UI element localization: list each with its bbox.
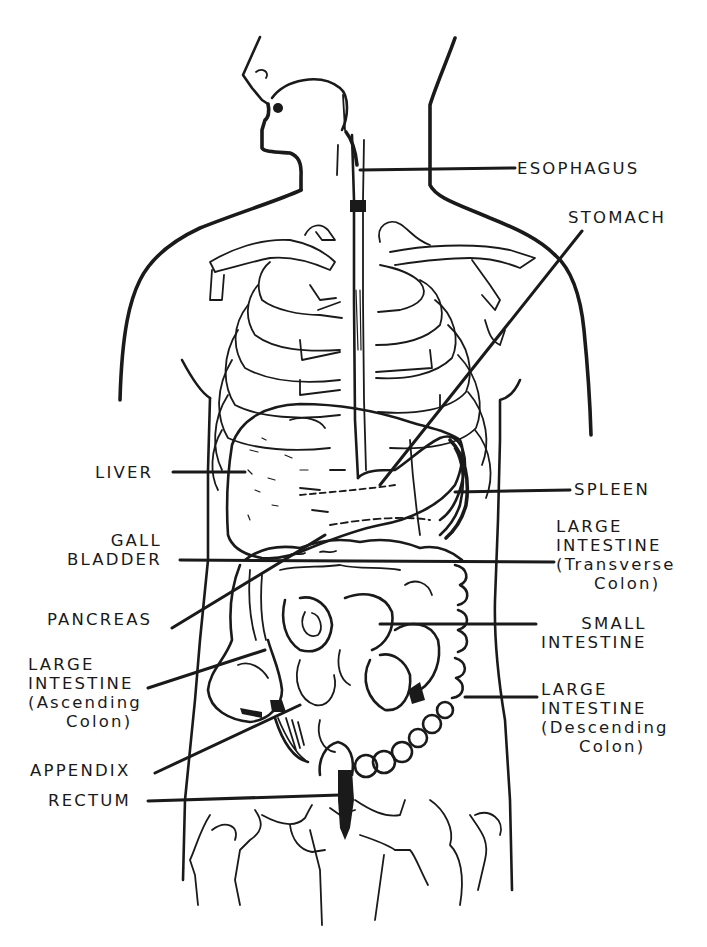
label-line: INTESTINE	[541, 699, 669, 718]
label-line: ESOPHAGUS	[517, 159, 639, 178]
label-line: INTESTINE	[541, 633, 647, 652]
label-line: INTESTINE	[28, 674, 142, 693]
label-large-intestine-descending: LARGEINTESTINE(DescendingColon)	[541, 680, 669, 756]
label-line: SMALL	[541, 614, 647, 633]
label-pancreas: PANCREAS	[47, 610, 152, 629]
rectum-leader	[148, 795, 340, 801]
ascending-colon-leader	[148, 650, 265, 688]
label-line: (Descending	[541, 718, 669, 737]
label-large-intestine-transverse: LARGEINTESTINE(TransverseColon)	[556, 517, 676, 593]
label-stomach: STOMACH	[568, 208, 666, 227]
label-line: (Ascending	[28, 693, 142, 712]
rectum-drawing	[320, 742, 354, 840]
label-appendix: APPENDIX	[30, 761, 130, 780]
label-line: Colon)	[541, 737, 669, 756]
label-line: (Transverse	[556, 555, 676, 574]
label-line: LARGE	[556, 517, 676, 536]
label-line: LIVER	[95, 463, 153, 482]
spleen-leader	[455, 490, 570, 492]
ascending-colon-drawing	[208, 565, 282, 722]
label-line: LARGE	[541, 680, 669, 699]
esophagus-leader	[360, 168, 515, 170]
label-line: Colon)	[556, 574, 676, 593]
label-line: SPLEEN	[574, 480, 650, 499]
small-intestine-drawing	[270, 582, 439, 752]
label-line: INTESTINE	[556, 536, 676, 555]
head-outline	[243, 37, 357, 190]
pancreas-leader	[172, 535, 325, 628]
appendix-drawing	[275, 718, 308, 762]
esophagus-drawing	[350, 135, 366, 478]
descending-colon-drawing	[355, 565, 467, 777]
stomach-leader	[380, 231, 582, 485]
anatomy-diagram: ESOPHAGUS STOMACH SPLEEN LARGEINTESTINE(…	[0, 0, 707, 947]
label-liver: LIVER	[95, 463, 153, 482]
ribs-left	[212, 262, 342, 490]
label-line: BLADDER	[67, 550, 162, 569]
label-line: GALL	[67, 531, 162, 550]
label-esophagus: ESOPHAGUS	[517, 159, 639, 178]
label-gall-bladder: GALLBLADDER	[67, 531, 162, 569]
label-line: PANCREAS	[47, 610, 152, 629]
label-line: LARGE	[28, 655, 142, 674]
label-line: APPENDIX	[30, 761, 130, 780]
neck-right-outline	[430, 38, 555, 255]
label-line: STOMACH	[568, 208, 666, 227]
ribs-right	[376, 265, 491, 498]
transverse-colon-leader	[180, 560, 554, 562]
label-line: Colon)	[28, 712, 142, 731]
label-rectum: RECTUM	[48, 791, 131, 810]
label-small-intestine: SMALLINTESTINE	[541, 614, 647, 652]
label-large-intestine-ascending: LARGEINTESTINE(AscendingColon)	[28, 655, 142, 731]
label-spleen: SPLEEN	[574, 480, 650, 499]
label-line: RECTUM	[48, 791, 131, 810]
